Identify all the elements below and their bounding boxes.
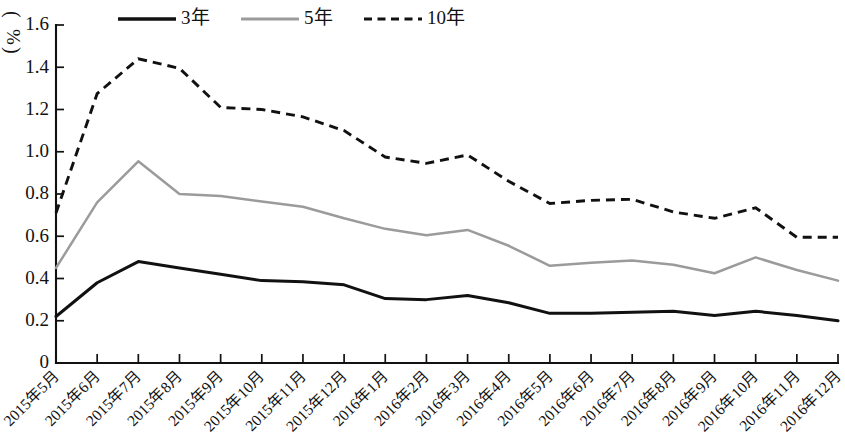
chart-axes (56, 25, 838, 363)
y-axis-tick-label: 1.6 (25, 13, 49, 34)
x-axis-ticks (56, 354, 838, 363)
legend-label-10y: 10年 (427, 7, 465, 28)
series-line-5y (56, 161, 838, 280)
y-axis-tick-label: 1.2 (25, 98, 49, 119)
y-axis-tick-label: 1.4 (25, 56, 49, 77)
chart-series-group (56, 59, 838, 321)
y-axis-tick-label: 0.8 (25, 182, 49, 203)
x-axis-labels: 2015年5月2015年6月2015年7月2015年8月2015年9月2015年… (0, 367, 844, 435)
y-axis-tick-label: 1.0 (25, 140, 49, 161)
y-unit-percent-symbol: % (3, 29, 24, 45)
y-axis-tick-label: 0.6 (25, 225, 49, 246)
y-axis-tick-label: 0.4 (25, 267, 49, 288)
chart-canvas: 3年 5年 10年 ( % ) 00.20.40.60.81.01.21.41.… (0, 0, 845, 448)
chart-legend: 3年 5年 10年 (118, 7, 465, 28)
y-unit-open-paren: ( (1, 11, 24, 18)
y-axis-ticks: 00.20.40.60.81.01.21.41.6 (25, 13, 64, 372)
legend-label-3y: 3年 (181, 7, 210, 28)
y-axis-unit-label: ( % ) (1, 11, 24, 54)
legend-label-5y: 5年 (304, 7, 333, 28)
series-line-10y (56, 59, 838, 238)
line-chart-figure: 3年 5年 10年 ( % ) 00.20.40.60.81.01.21.41.… (0, 0, 845, 448)
y-axis-tick-label: 0.2 (25, 309, 49, 330)
y-unit-close-paren: ) (1, 47, 24, 54)
